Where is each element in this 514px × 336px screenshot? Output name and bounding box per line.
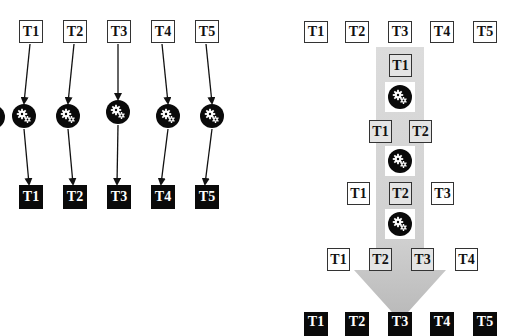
gears-icon (388, 149, 412, 173)
left-input-task: T3 (107, 20, 131, 43)
connector-arrow (206, 44, 212, 103)
right-input-task: T4 (430, 21, 454, 43)
connector-arrow (162, 44, 168, 103)
right-output-task: T4 (430, 312, 454, 336)
connector-arrow (117, 125, 118, 184)
stage-task: T1 (369, 120, 392, 143)
connector-arrow (161, 129, 168, 184)
right-output-task: T1 (304, 312, 328, 336)
left-input-task: T1 (19, 20, 43, 43)
stage-task: T3 (411, 248, 434, 271)
connector-arrow (24, 129, 29, 184)
left-output-task: T3 (107, 185, 131, 209)
gears-icon (388, 212, 412, 236)
gears-icon (106, 100, 130, 124)
stage-task: T2 (409, 120, 432, 143)
gears-icon (388, 85, 412, 109)
left-output-task: T1 (19, 185, 43, 209)
right-output-task: T2 (345, 312, 369, 336)
stage-task: T2 (369, 248, 392, 271)
stage-task: T1 (389, 54, 412, 77)
connector-arrow (24, 44, 30, 103)
left-input-task: T4 (151, 20, 175, 43)
gears-icon (200, 104, 224, 128)
left-input-task: T5 (195, 20, 219, 43)
stage-task: T3 (431, 182, 454, 205)
left-output-task: T5 (195, 185, 219, 209)
connector-arrow (68, 129, 73, 184)
right-output-task: T3 (388, 312, 412, 336)
stage-task: T2 (389, 182, 412, 205)
right-output-task: T5 (473, 312, 497, 336)
left-output-task: T2 (63, 185, 87, 209)
gears-icon (56, 104, 80, 128)
left-output-task: T4 (151, 185, 175, 209)
right-input-task: T5 (473, 21, 497, 43)
stage-task: T1 (347, 182, 370, 205)
connector-arrow (205, 129, 212, 184)
stage-task: T1 (327, 248, 350, 271)
left-input-task: T2 (63, 20, 87, 43)
gears-icon (12, 104, 36, 128)
right-input-task: T1 (304, 21, 328, 43)
gears-icon (156, 104, 180, 128)
stage-task: T4 (455, 248, 478, 271)
connector-arrow (68, 44, 74, 103)
right-input-task: T2 (345, 21, 369, 43)
right-input-task: T3 (388, 21, 412, 43)
